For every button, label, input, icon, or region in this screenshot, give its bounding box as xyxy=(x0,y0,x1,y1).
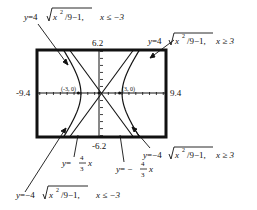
hyperbola-diagram: 6.2 -6.2 -9.4 9.4 (-3, 0) (3, 0) y=4 x 2… xyxy=(0,0,257,210)
label-upper-left: y=4 x 2 /9−1, x ≤ −3 xyxy=(23,8,125,22)
label-lower-right: y=−4 x 2 /9−1, x ≥ 3 xyxy=(142,147,234,160)
svg-text:y=4: y=4 xyxy=(23,12,38,22)
point-label-right: (3, 0) xyxy=(122,86,135,93)
svg-text:/9−1,: /9−1, xyxy=(187,150,206,160)
ymax-label: 6.2 xyxy=(92,38,103,48)
svg-text:3: 3 xyxy=(80,165,84,173)
branch-lower-left xyxy=(64,94,81,138)
svg-text:x ≥ 3: x ≥ 3 xyxy=(215,36,234,46)
svg-text:x: x xyxy=(48,190,53,200)
svg-text:/9−1,: /9−1, xyxy=(187,36,206,46)
svg-text:4: 4 xyxy=(80,154,84,162)
svg-text:x ≤ −3: x ≤ −3 xyxy=(95,190,121,200)
svg-text:y=−4: y=−4 xyxy=(142,150,162,160)
point-label-left: (-3, 0) xyxy=(61,86,76,93)
xmin-label: -9.4 xyxy=(16,88,31,98)
svg-text:x: x xyxy=(148,164,153,174)
svg-text:x: x xyxy=(174,36,179,46)
label-asymptote-positive: y= 4 3 x xyxy=(61,154,92,173)
svg-text:2: 2 xyxy=(182,33,185,39)
svg-text:2: 2 xyxy=(182,147,185,153)
svg-text:3: 3 xyxy=(141,171,145,179)
svg-text:y=4: y=4 xyxy=(147,36,162,46)
svg-text:x ≤ −3: x ≤ −3 xyxy=(99,12,125,22)
svg-text:2: 2 xyxy=(60,9,63,15)
svg-text:x: x xyxy=(87,158,92,168)
svg-text:x: x xyxy=(52,12,57,22)
origin-dot xyxy=(98,92,101,95)
svg-text:y=−4: y=−4 xyxy=(15,190,35,200)
label-lower-left: y=−4 x 2 /9−1, x ≤ −3 xyxy=(15,186,121,200)
label-asymptote-negative: y= − 4 3 x xyxy=(115,160,153,179)
vertex-right-dot xyxy=(118,92,121,95)
svg-text:2: 2 xyxy=(56,187,59,193)
svg-text:x: x xyxy=(174,150,179,160)
svg-text:x ≥ 3: x ≥ 3 xyxy=(215,150,234,160)
vertex-left-dot xyxy=(77,92,80,95)
svg-text:/9−1,: /9−1, xyxy=(65,12,84,22)
ymin-label: -6.2 xyxy=(92,141,106,151)
svg-text:y=: y= xyxy=(61,158,71,168)
label-upper-right: y=4 x 2 /9−1, x ≥ 3 xyxy=(147,33,234,46)
svg-text:/9−1,: /9−1, xyxy=(61,190,80,200)
svg-text:y= −: y= − xyxy=(115,164,132,174)
xmax-label: 9.4 xyxy=(170,88,182,98)
branch-lower-right xyxy=(122,94,139,138)
svg-text:4: 4 xyxy=(141,160,145,168)
